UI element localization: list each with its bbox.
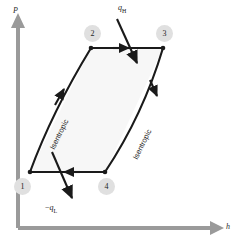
x-axis-arrowhead bbox=[210, 221, 224, 235]
ph-diagram-figure: P h qH −qL 1 2 3 4 Isentropic Isentropic bbox=[0, 0, 236, 251]
diagram-canvas bbox=[0, 0, 236, 251]
y-axis-label: P bbox=[13, 6, 18, 15]
x-axis-label: h bbox=[226, 222, 230, 231]
cycle-interior-fill bbox=[30, 48, 163, 172]
y-axis-arrowhead bbox=[11, 13, 25, 28]
state-point-2: 2 bbox=[84, 25, 101, 42]
heat-out-label: −qL bbox=[45, 203, 57, 214]
state-point-1: 1 bbox=[14, 178, 31, 195]
state-point-4: 4 bbox=[98, 178, 115, 195]
heat-in-label: qH bbox=[118, 3, 126, 14]
right-edge-arrow bbox=[150, 80, 157, 96]
state-point-3: 3 bbox=[156, 25, 173, 42]
